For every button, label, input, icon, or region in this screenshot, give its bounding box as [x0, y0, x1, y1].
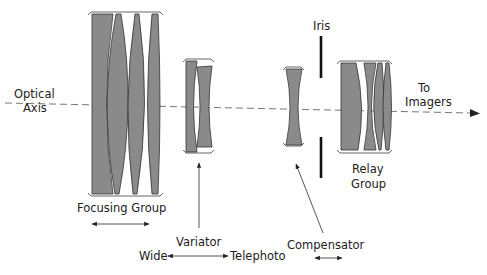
variator-lenses: [183, 59, 214, 153]
relay-group-lenses: [337, 61, 392, 153]
imagers-label: Imagers: [405, 95, 452, 109]
group-label: Group: [351, 177, 386, 191]
variator-label: Variator: [176, 235, 222, 249]
axis-label: Axis: [23, 101, 47, 115]
axis-arrow-icon: [470, 109, 480, 117]
compensator-label: Compensator: [287, 238, 365, 252]
relay-mount-bottom: [337, 150, 392, 153]
lens-meniscus: [107, 14, 128, 194]
focusing-group-lenses: [88, 12, 163, 196]
compensator-biconcave: [286, 69, 302, 145]
iris-label: Iris: [313, 19, 330, 33]
variator-lens-1: [186, 61, 197, 152]
relay-lens-3: [374, 63, 384, 150]
compensator-lens: [283, 67, 304, 146]
iris: Iris: [313, 19, 330, 178]
lens-biconvex: [128, 14, 145, 194]
focusing-group-label: Focusing Group: [77, 201, 166, 215]
relay-label: Relay: [352, 162, 384, 176]
lens-convex: [148, 14, 161, 194]
relay-lens-1: [341, 63, 362, 150]
variator-lens-2: [197, 66, 212, 147]
wide-label: Wide: [139, 249, 168, 263]
relay-lens-4: [383, 63, 392, 150]
axis-line: [5, 103, 470, 113]
compensator-pointer-arrow-icon: [296, 164, 323, 233]
optical-label: Optical: [14, 87, 55, 101]
telephoto-label: Telephoto: [229, 249, 286, 263]
to-label: To: [417, 81, 430, 95]
optical-diagram: Iris Optical Axis To Imagers Focusing Gr…: [0, 0, 487, 275]
